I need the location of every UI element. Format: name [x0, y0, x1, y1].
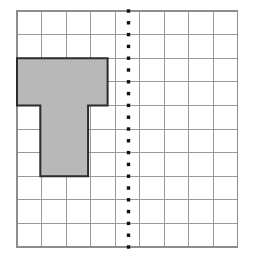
symmetry-line-dot [127, 210, 130, 213]
symmetry-line-dot [127, 68, 130, 71]
symmetry-line-dot [127, 245, 130, 248]
symmetry-line-dot [127, 116, 130, 119]
symmetry-line-dot [127, 104, 130, 107]
symmetry-line-dot [127, 21, 130, 24]
symmetry-line-dot [127, 175, 130, 178]
symmetry-line-dot [127, 234, 130, 237]
symmetry-line-dot [127, 92, 130, 95]
symmetry-line-dot [127, 139, 130, 142]
symmetry-line-dot [127, 222, 130, 225]
symmetry-line-dot [127, 9, 130, 12]
line-of-symmetry [127, 9, 130, 248]
symmetry-line-dot [127, 57, 130, 60]
figure-canvas [0, 0, 255, 262]
symmetry-line-dot [127, 186, 130, 189]
symmetry-line-dot [127, 151, 130, 154]
symmetry-line-dot [127, 33, 130, 36]
symmetry-line-dot [127, 163, 130, 166]
symmetry-line-dot [127, 45, 130, 48]
grid-figure-svg [0, 0, 255, 262]
symmetry-line-dot [127, 80, 130, 83]
symmetry-line-dot [127, 198, 130, 201]
symmetry-line-dot [127, 127, 130, 130]
